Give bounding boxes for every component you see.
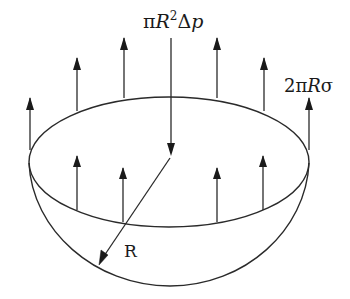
hemisphere-bowl bbox=[29, 163, 309, 286]
arrow-diagonal-icon bbox=[104, 158, 170, 256]
pressure-force-label: πR2Δp bbox=[143, 9, 203, 32]
tension-force-label: 2πRσ bbox=[284, 75, 333, 96]
tension-arrows-front bbox=[73, 155, 267, 222]
bubble-diagram: πR2Δp 2πRσ R bbox=[0, 0, 350, 299]
radius-label: R bbox=[124, 241, 138, 261]
rim-ellipse bbox=[29, 97, 309, 227]
tension-arrows-back bbox=[26, 37, 313, 150]
